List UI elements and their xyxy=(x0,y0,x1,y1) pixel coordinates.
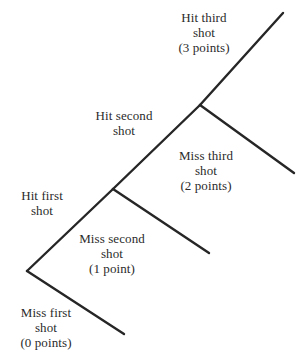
node-label-line-3: (2 points) xyxy=(160,178,252,193)
node-label-line-2: shot xyxy=(62,246,162,261)
node-label-line-1: Miss third xyxy=(160,148,252,163)
node-label-line-2: shot xyxy=(2,320,90,335)
node-label-hit-second-shot: Hit second shot xyxy=(78,108,170,138)
node-label-miss-second-shot: Miss second shot (1 point) xyxy=(62,231,162,276)
node-label-line-3: (0 points) xyxy=(2,335,90,350)
node-label-miss-third-shot: Miss third shot (2 points) xyxy=(160,148,252,193)
probability-tree-diagram: Hit third shot (3 points) Hit second sho… xyxy=(0,0,304,363)
node-label-line-2: shot xyxy=(156,25,252,40)
node-label-line-1: Miss first xyxy=(2,305,90,320)
node-label-line-1: Miss second xyxy=(62,231,162,246)
node-label-line-2: shot xyxy=(6,203,78,218)
node-label-line-2: shot xyxy=(78,123,170,138)
node-label-miss-first-shot: Miss first shot (0 points) xyxy=(2,305,90,350)
node-label-line-2: shot xyxy=(160,163,252,178)
node-label-hit-first-shot: Hit first shot xyxy=(6,188,78,218)
node-label-hit-third-shot: Hit third shot (3 points) xyxy=(156,10,252,55)
node-label-line-1: Hit first xyxy=(6,188,78,203)
node-label-line-1: Hit third xyxy=(156,10,252,25)
node-label-line-1: Hit second xyxy=(78,108,170,123)
node-label-line-3: (1 point) xyxy=(62,261,162,276)
node-label-line-3: (3 points) xyxy=(156,40,252,55)
